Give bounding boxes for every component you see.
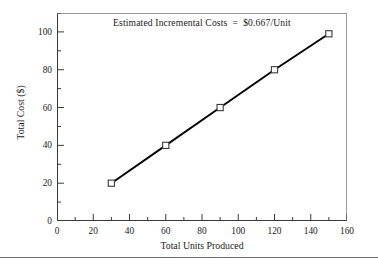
x-tick-label: 60 (161, 226, 170, 236)
y-tick-label: 40 (23, 140, 52, 150)
chart-annotation: Estimated Incremental Costs = $0.667/Uni… (57, 17, 347, 28)
y-tick-label: 80 (23, 65, 52, 75)
x-tick-label: 140 (304, 226, 318, 236)
data-point-marker (217, 104, 223, 110)
x-tick-label: 20 (89, 226, 98, 236)
y-axis-title: Total Cost ($) (15, 53, 26, 173)
y-tick-label: 0 (23, 216, 52, 226)
data-point-marker (326, 31, 332, 37)
tick-marks (57, 13, 347, 221)
bottom-divider-rule (0, 257, 378, 258)
chart-figure: Estimated Incremental Costs = $0.667/Uni… (0, 0, 378, 267)
x-tick-label: 120 (267, 226, 281, 236)
y-tick-label: 60 (23, 103, 52, 113)
data-point-marker (163, 142, 169, 148)
plot-area (57, 13, 347, 221)
x-tick-label: 160 (340, 226, 354, 236)
x-axis-title: Total Units Produced (57, 240, 347, 251)
y-tick-label: 100 (23, 27, 52, 37)
x-tick-label: 40 (125, 226, 134, 236)
x-tick-label: 100 (231, 226, 245, 236)
x-tick-label: 80 (197, 226, 206, 236)
data-point-marker (271, 67, 277, 73)
y-tick-label: 20 (23, 178, 52, 188)
x-tick-label: 0 (55, 226, 60, 236)
data-point-marker (108, 180, 114, 186)
